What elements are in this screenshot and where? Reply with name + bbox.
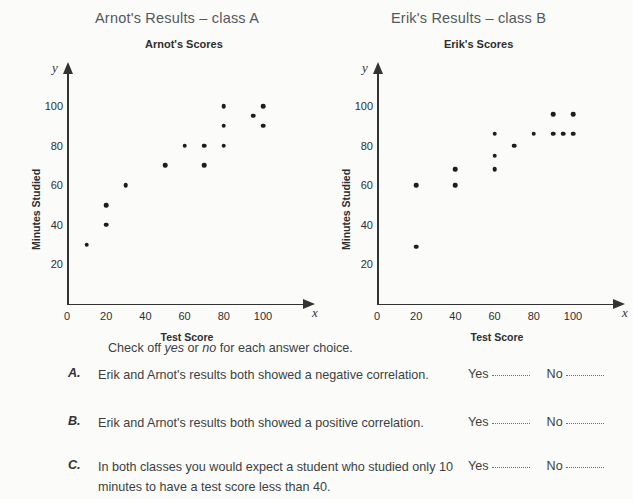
x-axis-variable-label: x xyxy=(312,305,318,321)
data-point xyxy=(261,104,266,109)
data-point xyxy=(202,143,207,148)
scatter-chart-erik: y x 20406080100 Test Score Minutes Studi… xyxy=(330,60,630,335)
instruction-part-3: for each answer choice. xyxy=(216,341,353,355)
no-label: No xyxy=(547,367,563,381)
x-tick-20: 20 xyxy=(100,310,112,322)
y-tick-60: 60 xyxy=(333,179,373,191)
x-axis-title: Test Score xyxy=(377,331,617,343)
y-axis-line xyxy=(67,72,69,305)
yes-label: Yes xyxy=(468,367,489,381)
data-point xyxy=(414,183,419,188)
y-tick-60: 60 xyxy=(23,179,63,191)
instruction-part-1: Check off xyxy=(108,341,164,355)
instruction-no-word: no xyxy=(202,341,216,355)
no-label: No xyxy=(547,459,563,473)
data-point xyxy=(251,114,256,119)
data-point xyxy=(261,124,266,129)
yes-blank-field[interactable] xyxy=(492,414,530,424)
choice-text: Erik and Arnot's results both showed a n… xyxy=(98,366,458,386)
choice-letter: A. xyxy=(68,366,94,380)
question-instruction: Check off yes or no for each answer choi… xyxy=(108,341,353,355)
data-point xyxy=(571,131,576,136)
data-point xyxy=(414,244,419,249)
data-point xyxy=(492,167,497,172)
scatter-chart-arnot: y x 20406080100 Test Score Minutes Studi… xyxy=(20,60,320,335)
choice-text: Erik and Arnot's results both showed a p… xyxy=(98,414,458,434)
section-title-arnot: Arnot's Results – class A xyxy=(95,10,259,26)
data-point xyxy=(492,131,497,136)
yes-label: Yes xyxy=(468,415,489,429)
y-tick-80: 80 xyxy=(333,140,373,152)
x-axis-line xyxy=(67,304,307,306)
x-tick-60: 60 xyxy=(178,310,190,322)
x-tick-40: 40 xyxy=(139,310,151,322)
data-point xyxy=(453,183,458,188)
y-tick-20: 20 xyxy=(333,258,373,270)
data-point xyxy=(512,143,517,148)
yes-label: Yes xyxy=(468,459,489,473)
data-point xyxy=(222,143,227,148)
y-axis-title: Minutes Studied xyxy=(30,169,42,250)
data-point xyxy=(551,112,556,117)
yes-blank-field[interactable] xyxy=(492,366,530,376)
data-point xyxy=(202,163,207,168)
yes-option[interactable]: Yes xyxy=(468,366,530,381)
chart-title-erik: Erik's Scores xyxy=(444,38,513,50)
no-blank-field[interactable] xyxy=(566,366,604,376)
y-axis-arrow-icon xyxy=(63,62,73,74)
x-tick-80: 80 xyxy=(528,310,540,322)
choice-answer-options: YesNo xyxy=(468,458,633,473)
data-point xyxy=(571,112,576,117)
instruction-yes-word: yes xyxy=(164,341,184,355)
data-point xyxy=(453,167,458,172)
data-point xyxy=(124,183,129,188)
x-tick-40: 40 xyxy=(449,310,461,322)
data-point xyxy=(551,131,556,136)
x-tick-60: 60 xyxy=(488,310,500,322)
yes-option[interactable]: Yes xyxy=(468,414,530,429)
chart-title-arnot: Arnot's Scores xyxy=(145,38,223,50)
instruction-part-2: or xyxy=(184,341,202,355)
y-axis-arrow-icon xyxy=(373,62,383,74)
choice-letter: B. xyxy=(68,414,94,428)
no-blank-field[interactable] xyxy=(566,414,604,424)
x-axis-line xyxy=(377,304,617,306)
data-point xyxy=(84,242,89,247)
data-point xyxy=(104,203,109,208)
section-title-erik: Erik's Results – class B xyxy=(391,10,546,26)
y-axis-line xyxy=(377,72,379,305)
x-tick-80: 80 xyxy=(218,310,230,322)
no-blank-field[interactable] xyxy=(566,458,604,468)
data-point xyxy=(104,223,109,228)
y-tick-100: 100 xyxy=(23,100,63,112)
y-tick-100: 100 xyxy=(333,100,373,112)
y-tick-20: 20 xyxy=(23,258,63,270)
x-tick-0: 0 xyxy=(64,310,70,322)
x-tick-0: 0 xyxy=(374,310,380,322)
x-tick-20: 20 xyxy=(410,310,422,322)
worksheet-page: Arnot's Results – class A Erik's Results… xyxy=(0,0,633,499)
no-option[interactable]: No xyxy=(547,414,604,429)
choice-letter: C. xyxy=(68,458,94,472)
yes-blank-field[interactable] xyxy=(492,458,530,468)
y-axis-title: Minutes Studied xyxy=(340,169,352,250)
data-point xyxy=(532,131,537,136)
x-axis-variable-label: x xyxy=(622,305,628,321)
choice-text: In both classes you would expect a stude… xyxy=(98,458,458,497)
yes-option[interactable]: Yes xyxy=(468,458,530,473)
y-tick-40: 40 xyxy=(23,219,63,231)
data-point xyxy=(222,104,227,109)
data-point xyxy=(222,124,227,129)
y-tick-40: 40 xyxy=(333,219,373,231)
data-point xyxy=(182,143,187,148)
data-point xyxy=(163,163,168,168)
data-point xyxy=(561,131,566,136)
no-option[interactable]: No xyxy=(547,458,604,473)
x-tick-100: 100 xyxy=(254,310,272,322)
x-tick-100: 100 xyxy=(564,310,582,322)
choice-answer-options: YesNo xyxy=(468,366,633,381)
data-point xyxy=(492,153,497,158)
no-option[interactable]: No xyxy=(547,366,604,381)
y-tick-80: 80 xyxy=(23,140,63,152)
no-label: No xyxy=(547,415,563,429)
